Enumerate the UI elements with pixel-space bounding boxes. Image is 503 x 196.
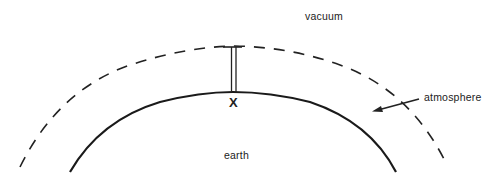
vacuum-label: vacuum bbox=[305, 10, 343, 22]
atmosphere-arrow bbox=[372, 99, 419, 112]
earth-label: earth bbox=[224, 149, 249, 161]
point-x-label: X bbox=[229, 95, 238, 110]
atmosphere-label: atmosphere bbox=[424, 91, 481, 103]
barometer-column bbox=[223, 47, 242, 92]
